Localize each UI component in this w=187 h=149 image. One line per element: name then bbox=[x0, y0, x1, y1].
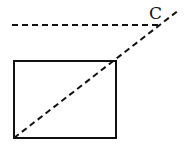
point-label-c: C bbox=[149, 5, 162, 22]
diagram-canvas: C bbox=[0, 0, 187, 149]
diagonal-dashed-line bbox=[14, 10, 179, 138]
